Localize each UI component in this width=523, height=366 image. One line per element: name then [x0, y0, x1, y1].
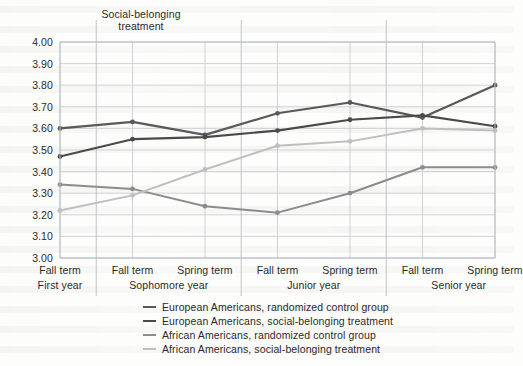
data-point [130, 137, 135, 142]
data-point [420, 165, 425, 170]
y-tick-label: 3.00 [32, 252, 53, 264]
data-point [348, 191, 353, 196]
data-point [130, 186, 135, 191]
data-point [275, 143, 280, 148]
x-tick-label: Spring term [177, 264, 232, 276]
x-group-label: Junior year [287, 279, 340, 291]
legend-item: African Americans, social-belonging trea… [143, 342, 393, 355]
data-point [130, 193, 135, 198]
y-tick-label: 3.70 [32, 101, 53, 113]
legend-item: European Americans, randomized control g… [143, 300, 393, 313]
y-tick-label: 3.10 [32, 230, 53, 242]
legend-label: African Americans, randomized control gr… [162, 329, 376, 341]
legend-swatch [143, 348, 156, 350]
y-tick-label: 3.40 [32, 166, 53, 178]
legend-swatch [143, 334, 156, 336]
y-tick-label: 3.90 [32, 58, 53, 70]
legend-swatch [143, 306, 156, 308]
x-axis-tick-labels: Fall termFall termSpring termFall termSp… [0, 0, 514, 40]
x-tick-label: Fall term [402, 264, 444, 276]
y-tick-label: 3.80 [32, 79, 53, 91]
data-point [203, 167, 208, 172]
y-tick-label: 3.20 [32, 209, 53, 221]
x-tick-label: Fall term [257, 264, 299, 276]
legend-swatch [143, 320, 156, 322]
data-point [275, 210, 280, 215]
y-tick-label: 3.60 [32, 122, 53, 134]
data-point [275, 111, 280, 116]
vertical-gridlines [60, 20, 495, 296]
data-point [275, 128, 280, 133]
data-point [348, 100, 353, 105]
x-tick-label: Fall term [39, 264, 81, 276]
x-tick-label: Fall term [112, 264, 154, 276]
legend-label: African Americans, social-belonging trea… [162, 343, 380, 355]
y-tick-label: 3.30 [32, 187, 53, 199]
y-tick-label: 3.50 [32, 144, 53, 156]
x-tick-label: Spring term [322, 264, 377, 276]
data-point [420, 126, 425, 131]
chart-legend: European Americans, randomized control g… [143, 300, 393, 355]
data-point [420, 113, 425, 118]
x-tick-label: Spring term [467, 264, 522, 276]
data-point [348, 117, 353, 122]
legend-item: European Americans, social-belonging tre… [143, 314, 393, 327]
x-group-label: Sophomore year [129, 279, 208, 291]
legend-label: European Americans, randomized control g… [162, 301, 389, 313]
legend-item: African Americans, randomized control gr… [143, 328, 393, 341]
data-point [203, 135, 208, 140]
data-point [203, 204, 208, 209]
data-point [130, 120, 135, 125]
x-group-label: Senior year [431, 279, 486, 291]
legend-label: European Americans, social-belonging tre… [162, 315, 393, 327]
data-point [348, 139, 353, 144]
x-group-label: First year [38, 279, 83, 291]
